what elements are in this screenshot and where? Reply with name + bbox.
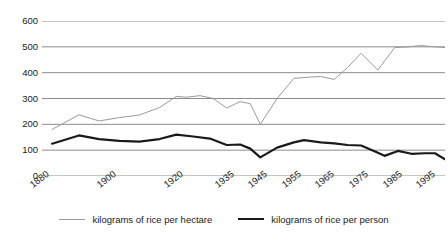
y-tick-label: 300 bbox=[0, 94, 38, 104]
legend-line-swatch-icon bbox=[59, 219, 85, 220]
y-tick-label: 500 bbox=[0, 42, 38, 52]
y-axis: 6005004003002001000 bbox=[0, 0, 38, 190]
series-lines bbox=[52, 46, 445, 160]
legend-label: kilograms of rice per hectare bbox=[92, 214, 212, 225]
plot-area bbox=[42, 21, 445, 176]
chart-legend: kilograms of rice per hectarekilograms o… bbox=[0, 206, 448, 232]
y-tick-label: 600 bbox=[0, 16, 38, 26]
legend-label: kilograms of rice per person bbox=[271, 214, 388, 225]
y-tick-label: 100 bbox=[0, 145, 38, 155]
series-line-hectare bbox=[52, 46, 445, 130]
gridlines bbox=[42, 21, 445, 176]
rice-production-line-chart: 6005004003002001000 18801900192019351945… bbox=[0, 0, 448, 234]
series-line-person bbox=[52, 135, 445, 160]
legend-item: kilograms of rice per person bbox=[238, 214, 388, 225]
legend-item: kilograms of rice per hectare bbox=[59, 214, 212, 225]
y-tick-label: 400 bbox=[0, 68, 38, 78]
y-tick-label: 200 bbox=[0, 119, 38, 129]
legend-line-swatch-icon bbox=[238, 218, 264, 220]
plot-svg bbox=[42, 21, 445, 176]
x-axis: 1880190019201935194519551965197519851995 bbox=[0, 176, 448, 210]
